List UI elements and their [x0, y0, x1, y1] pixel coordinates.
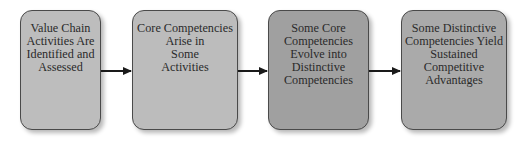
- node-text-line: Advantages: [402, 74, 506, 87]
- node-text-line: Assessed: [21, 61, 100, 74]
- node-text-line: Activities: [133, 61, 237, 74]
- node-text-line: Competencies: [269, 74, 368, 87]
- node-value-chain-activities: Value Chain Activities Are Identified an…: [20, 10, 101, 130]
- arrow-right-icon: [238, 70, 267, 72]
- node-core-competencies: Core Competencies Arise in Some Activiti…: [132, 10, 238, 130]
- arrow-right-icon: [369, 70, 400, 72]
- node-sustained-competitive-advantages: Some Distinctive Competencies Yield Sust…: [401, 10, 507, 130]
- node-distinctive-competencies: Some Core Competencies Evolve into Disti…: [268, 10, 369, 130]
- arrow-right-icon: [101, 70, 131, 72]
